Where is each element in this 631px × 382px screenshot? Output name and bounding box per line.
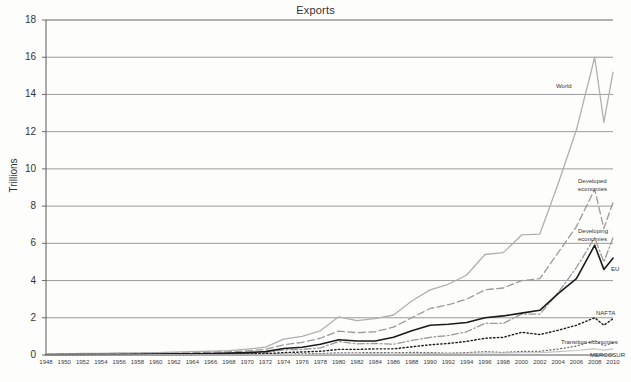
series-label-world: World bbox=[556, 83, 572, 91]
gridlines bbox=[46, 20, 613, 318]
series-label-nafta: NAFTA bbox=[596, 310, 615, 318]
y-tick-label: 6 bbox=[10, 238, 36, 248]
series-line-developing-economies bbox=[46, 238, 613, 355]
y-tick-label: 10 bbox=[10, 164, 36, 174]
y-tick-label: 8 bbox=[10, 201, 36, 211]
plot-area bbox=[0, 0, 631, 382]
series-label-mercosur: MERCOSUR bbox=[590, 352, 625, 360]
y-tick-label: 0 bbox=[10, 350, 36, 360]
y-tick-label: 14 bbox=[10, 89, 36, 99]
x-tick-label: 2010 bbox=[602, 359, 624, 366]
series-label-transition-economies: Transition economies bbox=[561, 339, 618, 347]
axis-lines bbox=[42, 20, 613, 355]
y-tick-label: 2 bbox=[10, 313, 36, 323]
series-label-developed-economies: Developed economies bbox=[578, 178, 607, 193]
series-label-eu: EU bbox=[611, 266, 619, 274]
y-tick-label: 18 bbox=[10, 15, 36, 25]
y-tick-label: 4 bbox=[10, 276, 36, 286]
series-line-world bbox=[46, 57, 613, 354]
series-label-developing-economies: Developing economies bbox=[578, 228, 608, 243]
series-line-developed-economies bbox=[46, 189, 613, 354]
series-line-eu bbox=[46, 245, 613, 355]
y-tick-label: 12 bbox=[10, 127, 36, 137]
y-tick-label: 16 bbox=[10, 52, 36, 62]
exports-line-chart: Exports Trillions 024681012141618 194819… bbox=[0, 0, 631, 382]
